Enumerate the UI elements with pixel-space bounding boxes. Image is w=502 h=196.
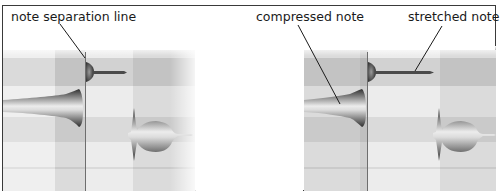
compressed-note-label: compressed note (256, 9, 364, 24)
stretched-note-label: stretched note (408, 9, 500, 24)
piano-roll-grid-after (300, 46, 496, 191)
panel-before: note separation line (3, 9, 200, 192)
piano-roll-grid-before (3, 46, 200, 192)
note-separation-line-label: note separation line (11, 9, 137, 24)
note-editor-diagram: note separation line compressed no (0, 0, 502, 196)
panel-gap (196, 48, 303, 191)
